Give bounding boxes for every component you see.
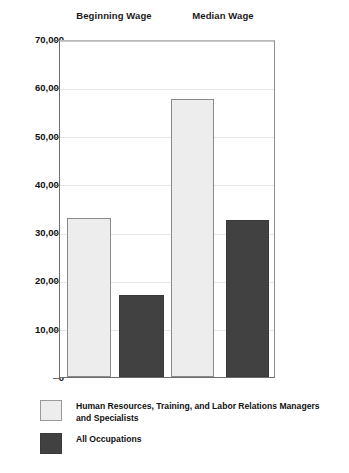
chart-legend: Human Resources, Training, and Labor Rel… [40,400,340,464]
y-axis-tick-mark [53,378,59,379]
legend-item: Human Resources, Training, and Labor Rel… [40,400,340,424]
bar-series2 [119,295,164,377]
bar-series1 [67,218,111,377]
gridline [60,41,274,42]
legend-label: All Occupations [76,433,326,446]
gridline [60,89,274,90]
group-header-beginning-wage: Beginning Wage [59,10,169,21]
bar-series2 [226,220,269,377]
gridline [60,185,274,186]
gridline [60,137,274,138]
bar-chart: Beginning Wage Median Wage 010,00020,000… [0,0,349,473]
bar-series1 [171,99,214,377]
legend-swatch-light-icon [40,400,62,421]
legend-item: All Occupations [40,433,340,455]
plot-area [59,40,275,378]
group-header-median-wage: Median Wage [168,10,278,21]
legend-swatch-dark-icon [40,433,62,454]
legend-label: Human Resources, Training, and Labor Rel… [76,400,326,424]
